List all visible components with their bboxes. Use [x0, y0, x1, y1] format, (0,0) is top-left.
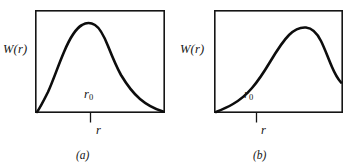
panel-b-r0-label: r0: [244, 88, 253, 102]
panel-a-plot: [0, 0, 176, 168]
panel-a-axes-frame: [36, 11, 164, 112]
panel-b-y-axis-label: W(r): [180, 43, 204, 56]
panel-a-caption: (a): [76, 150, 89, 162]
panel-a-r0-subscript: 0: [89, 92, 93, 102]
panel-b-plot: [176, 0, 353, 168]
panel-b-axes-frame: [215, 11, 342, 112]
panel-a-x-axis-label: r: [96, 124, 101, 137]
panel-b-curve: [216, 27, 341, 112]
panel-a-r0-label: r0: [84, 88, 93, 102]
panel-a-y-axis-label: W(r): [3, 43, 27, 56]
figure-root: W(r) r r0 (a) W(r) r r0 (b): [0, 0, 353, 168]
panel-b-r0-subscript: 0: [249, 92, 253, 102]
panel-a: W(r) r r0 (a): [0, 0, 176, 168]
panel-b: W(r) r r0 (b): [176, 0, 353, 168]
panel-a-curve: [37, 23, 163, 112]
panel-b-x-axis-label: r: [261, 124, 266, 137]
panel-b-caption: (b): [253, 150, 266, 162]
